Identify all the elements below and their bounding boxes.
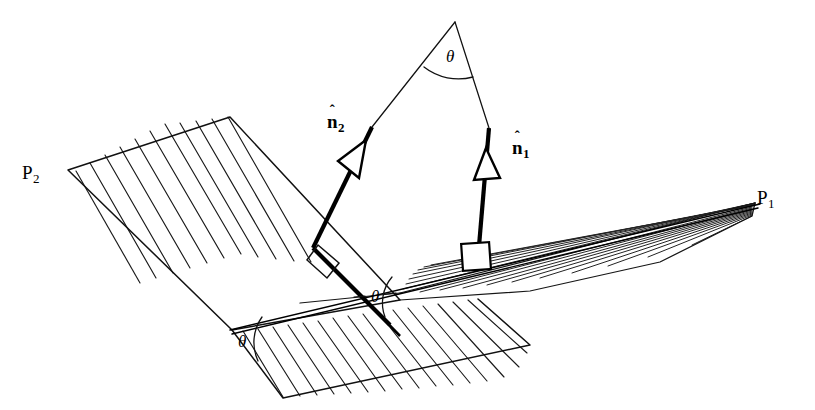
- plane-label-p1: P1: [757, 188, 775, 210]
- normal-label-n2: ̂n2: [327, 112, 345, 134]
- normal-n1-apex-segment: [455, 22, 489, 128]
- normal-n1-shaft: [478, 128, 489, 258]
- normal-label-n1-base: n: [512, 137, 523, 158]
- angle-label-theta-front-edge: θ: [238, 333, 246, 350]
- plane-p2-hatching-lower: [243, 300, 527, 397]
- normal-label-n2-base: n: [327, 111, 338, 132]
- intersection-stub: [368, 303, 400, 336]
- normal-n2-apex-segment: [372, 22, 455, 127]
- arrowhead-n2-icon: [338, 140, 366, 178]
- plane-label-p2-subscript: 2: [33, 171, 40, 186]
- plane-label-p1-subscript: 1: [768, 196, 775, 211]
- angle-arc-apex-path: [424, 67, 473, 79]
- normal-label-n2-letter: ̂n: [327, 112, 338, 131]
- normal-label-n1-subscript: 1: [523, 146, 530, 161]
- angle-label-theta-intersection: θ: [371, 288, 379, 305]
- arrowhead-n1-icon: [474, 148, 500, 180]
- plane-label-p1-letter: P: [757, 187, 768, 208]
- normal-label-n1-letter: ̂n: [512, 138, 523, 157]
- angle-arc-apex: [424, 67, 473, 79]
- right-angle-marker-n1: [461, 242, 491, 271]
- plane-p1: [300, 203, 755, 303]
- plane-label-p2-letter: P: [22, 162, 33, 183]
- normal-vector-n1: [455, 22, 500, 271]
- intersection-stub-line: [368, 303, 400, 336]
- plane-p2: [68, 117, 530, 398]
- angle-label-theta-apex: θ: [446, 48, 454, 65]
- normal-label-n2-subscript: 2: [338, 120, 345, 135]
- figure-root: P2 P1 ̂n2 ̂n1 θ θ θ: [0, 0, 815, 410]
- diagram-canvas: [0, 0, 815, 410]
- right-angle-marker-n2: [307, 245, 339, 278]
- plane-label-p2: P2: [22, 163, 40, 185]
- plane-p2-hatching-upper: [76, 117, 311, 283]
- normal-label-n1: ̂n1: [512, 138, 530, 160]
